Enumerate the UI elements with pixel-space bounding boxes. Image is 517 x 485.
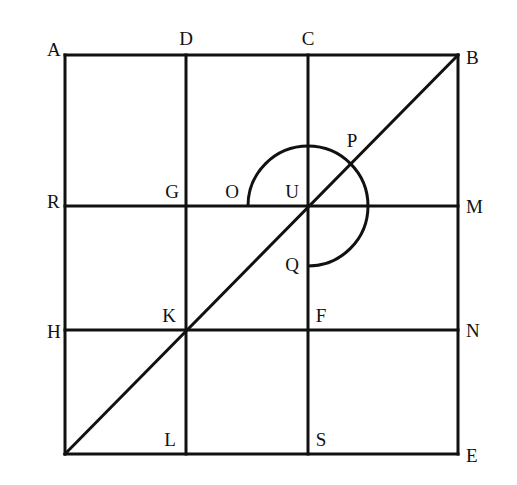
label-g: G <box>165 181 179 202</box>
grid-lines <box>65 55 458 454</box>
diagonal-to-B-line <box>65 55 458 454</box>
label-s: S <box>316 429 327 450</box>
label-h: H <box>47 321 61 342</box>
label-l: L <box>164 429 176 450</box>
label-c: C <box>302 28 315 49</box>
label-n: N <box>466 320 480 341</box>
label-o: O <box>225 181 239 202</box>
label-m: M <box>466 196 483 217</box>
label-p: P <box>347 130 358 151</box>
label-k: K <box>162 305 176 326</box>
label-e: E <box>466 445 478 466</box>
label-d: D <box>179 28 193 49</box>
point-labels: A D C B R G O U P M Q H K F N L S E <box>47 28 483 466</box>
label-f: F <box>316 305 327 326</box>
label-u: U <box>285 181 299 202</box>
label-r: R <box>47 191 60 212</box>
label-b: B <box>466 47 479 68</box>
label-q: Q <box>285 254 299 275</box>
label-a: A <box>47 39 61 60</box>
geometry-diagram: A D C B R G O U P M Q H K F N L S E <box>0 0 517 485</box>
